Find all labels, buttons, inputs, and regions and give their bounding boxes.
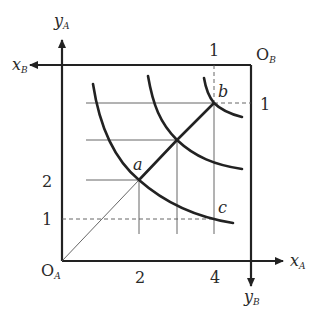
origin-a-label: OA: [41, 261, 61, 281]
tick-x-a-4: 4: [210, 268, 220, 287]
contract-curve: [139, 103, 214, 180]
x-a-label: xA: [290, 251, 306, 271]
point-c-label: c: [218, 198, 227, 217]
tick-x-a-2: 2: [135, 268, 145, 287]
y-b-label: yB: [243, 287, 260, 307]
tick-y-b-1: 1: [260, 95, 270, 114]
tick-y-a-1: 1: [42, 210, 52, 229]
origin-b-label: OB: [256, 45, 276, 65]
tick-x-b-1: 1: [209, 41, 219, 60]
x-b-label: xB: [12, 55, 28, 75]
point-b-label: b: [218, 82, 228, 101]
tick-y-a-2: 2: [42, 172, 52, 191]
diagonal-oa-a: [62, 180, 139, 261]
point-a-label: a: [133, 155, 143, 174]
y-a-label: yA: [53, 11, 70, 31]
edgeworth-box-diagram: yA xB xA yB OA OB 2 1 2 4 1 1 a b c: [0, 0, 322, 331]
